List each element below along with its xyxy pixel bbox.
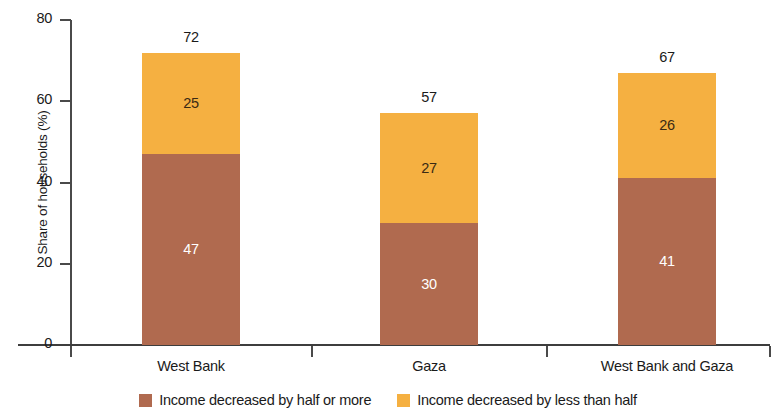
y-tick-mark: [60, 100, 71, 102]
y-tick-mark: [60, 263, 71, 265]
legend-label: Income decreased by less than half: [417, 392, 637, 408]
bar-segment-less-than-half[interactable]: 27: [380, 113, 478, 223]
legend-swatch-icon: [139, 394, 152, 407]
stacked-bar-chart: Share of households (%) 020406080 254772…: [0, 0, 776, 419]
x-tick-mark: [769, 346, 771, 357]
y-tick-mark: [60, 182, 71, 184]
bar-stack[interactable]: 2641: [618, 73, 716, 345]
bar-stack[interactable]: 2730: [380, 113, 478, 345]
bar-segment-half-or-more[interactable]: 47: [142, 154, 240, 345]
legend-item[interactable]: Income decreased by less than half: [397, 392, 637, 408]
bar-segment-half-or-more[interactable]: 41: [618, 178, 716, 345]
y-tick-label: 60: [0, 91, 52, 107]
x-category-label: Gaza: [329, 358, 529, 374]
bar-total-label: 57: [380, 89, 478, 105]
bar-segment-less-than-half[interactable]: 25: [142, 53, 240, 155]
chart-legend: Income decreased by half or moreIncome d…: [0, 392, 776, 408]
y-tick-label: 0: [0, 335, 52, 351]
legend-label: Income decreased by half or more: [159, 392, 371, 408]
y-tick-label: 20: [0, 254, 52, 270]
y-tick-label: 80: [0, 10, 52, 26]
y-tick-mark: [60, 19, 71, 21]
bar-segment-value-label: 47: [183, 242, 199, 257]
bar-segment-value-label: 26: [659, 118, 675, 133]
bar-total-label: 67: [618, 49, 716, 65]
legend-swatch-icon: [397, 394, 410, 407]
x-tick-mark: [311, 346, 313, 357]
x-tick-mark: [70, 346, 72, 357]
bar-segment-value-label: 27: [421, 161, 437, 176]
x-category-label: West Bank and Gaza: [567, 358, 767, 374]
bar-segment-value-label: 41: [659, 254, 675, 269]
bar-segment-less-than-half[interactable]: 26: [618, 73, 716, 179]
x-tick-mark: [546, 346, 548, 357]
y-tick-label: 40: [0, 173, 52, 189]
bar-stack[interactable]: 2547: [142, 53, 240, 346]
bar-segment-half-or-more[interactable]: 30: [380, 223, 478, 345]
legend-item[interactable]: Income decreased by half or more: [139, 392, 371, 408]
bar-total-label: 72: [142, 29, 240, 45]
bar-segment-value-label: 30: [421, 277, 437, 292]
bar-segment-value-label: 25: [183, 96, 199, 111]
x-category-label: West Bank: [91, 358, 291, 374]
